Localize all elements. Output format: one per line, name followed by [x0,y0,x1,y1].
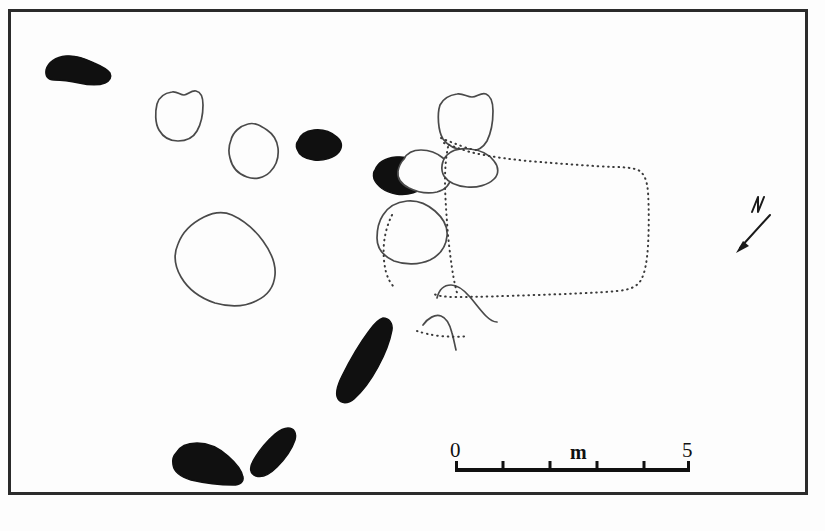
site-plan-figure: 0 m 5 [0,0,825,531]
stone-outline-upper-left-small [156,91,203,141]
stone-outline-cluster-top [438,94,493,152]
stone-outline-large-boulder [175,213,275,306]
stone-filled-lower-left [173,443,244,485]
dotted-feature-base-arc [417,331,468,337]
scale-bar-label-unit: m [570,442,587,462]
scale-bar-label-end: 5 [682,440,693,461]
stone-outline-cluster-base-tail [423,315,456,350]
stone-filled-small-lozenge [296,130,341,160]
stone-outline-upper-mid [229,123,278,178]
stone-filled-upper-left [46,56,111,85]
stone-filled-long-diagonal [337,318,393,403]
stone-outline-cluster-east [442,149,498,187]
north-arrow-head [736,241,749,253]
north-arrow [736,197,770,253]
north-letter-glyph [752,197,764,212]
stone-outline-cluster-base-partial [437,285,497,322]
stone-outline-cluster-lower [377,201,447,264]
scale-bar-label-start: 0 [450,440,461,461]
site-plan-canvas [0,0,825,531]
stone-filled-short-diagonal [251,428,296,477]
